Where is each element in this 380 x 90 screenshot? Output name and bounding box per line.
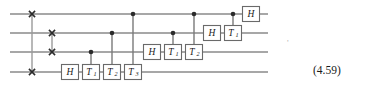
gate-g-t1-w2[interactable]: T1 [165, 45, 182, 60]
gate-g-h-w3[interactable]: H [62, 65, 79, 80]
wires-group [10, 14, 268, 72]
figure-container: HT1T2T3HT1T2HT1H ' (4.59) [0, 0, 380, 90]
equation-number: (4.59) [313, 64, 341, 76]
gate-g-t3-w3-subscript: 3 [135, 70, 139, 77]
gate-g-h-w3-label: H [66, 67, 75, 77]
g-t2-w2-control-dot [192, 12, 197, 17]
gate-g-h-w1-label: H [208, 28, 217, 38]
gate-g-t1-w1-label: T [228, 28, 234, 38]
g-t1-w1-control-dot [231, 12, 236, 17]
gate-g-t1-w3[interactable]: T1 [83, 65, 100, 80]
swaps-group [29, 11, 55, 75]
gate-g-h-w0-label: H [247, 9, 256, 19]
g-t1-w2-control-dot [171, 31, 176, 36]
gate-g-t1-w1-subscript: 1 [236, 31, 239, 38]
gate-g-h-w2[interactable]: H [144, 45, 161, 60]
quantum-circuit-diagram: HT1T2T3HT1T2HT1H [0, 0, 380, 90]
stray-ink-mark: ' [287, 38, 289, 48]
gate-g-t1-w3-subscript: 1 [94, 70, 97, 77]
gate-g-h-w2-label: H [148, 47, 157, 57]
gate-g-h-w1[interactable]: H [204, 26, 221, 41]
gate-g-t2-w3-subscript: 2 [115, 70, 118, 77]
gate-g-t2-w2-subscript: 2 [197, 50, 200, 57]
gates-group: HT1T2T3HT1T2HT1H [62, 7, 260, 80]
gate-g-t3-w3[interactable]: T3 [125, 65, 142, 80]
g-t2-w3-control-dot [110, 31, 115, 36]
gate-g-t3-w3-label: T [128, 67, 134, 77]
gate-g-t1-w3-label: T [86, 67, 92, 77]
gate-g-t2-w3-label: T [107, 67, 113, 77]
gate-g-t2-w3[interactable]: T2 [104, 65, 121, 80]
gate-g-t1-w2-label: T [168, 47, 174, 57]
gate-g-t1-w1[interactable]: T1 [225, 26, 242, 41]
g-t1-w3-control-dot [89, 50, 94, 55]
gate-g-h-w0[interactable]: H [243, 7, 260, 22]
gate-g-t1-w2-subscript: 1 [176, 50, 179, 57]
gate-g-t2-w2-label: T [189, 47, 195, 57]
gate-g-t2-w2[interactable]: T2 [186, 45, 203, 60]
g-t3-w3-control-dot [131, 12, 136, 17]
